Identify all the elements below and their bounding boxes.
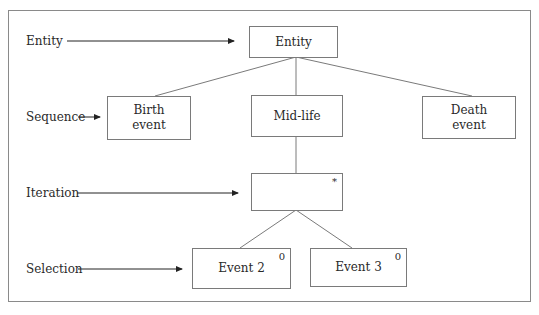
selection-marker: 0 xyxy=(395,252,401,262)
node-birth-event: Birth event xyxy=(107,96,191,140)
node-mid-life: Mid-life xyxy=(251,95,343,137)
node-event2-text: Event 2 xyxy=(218,261,265,276)
node-midlife-text: Mid-life xyxy=(273,109,320,124)
label-selection: Selection xyxy=(26,262,83,276)
node-entity-text: Entity xyxy=(275,35,312,50)
node-event-3: Event 3 0 xyxy=(310,248,407,287)
label-iteration: Iteration xyxy=(26,186,79,200)
node-iteration: * xyxy=(251,173,343,211)
iteration-marker: * xyxy=(332,177,337,187)
node-birth-text: Birth event xyxy=(132,103,166,133)
edge-iteration-event2 xyxy=(240,210,296,248)
label-entity: Entity xyxy=(26,34,63,48)
node-event3-text: Event 3 xyxy=(335,260,382,275)
label-sequence: Sequence xyxy=(26,110,85,124)
node-death-event: Death event xyxy=(422,96,516,139)
selection-marker: 0 xyxy=(279,252,285,262)
edge-entity-birth xyxy=(155,57,296,96)
node-death-text: Death event xyxy=(451,103,487,133)
node-event-2: Event 2 0 xyxy=(192,248,291,289)
edge-entity-death xyxy=(296,57,472,96)
edge-iteration-event3 xyxy=(296,210,352,248)
node-entity: Entity xyxy=(249,26,338,58)
